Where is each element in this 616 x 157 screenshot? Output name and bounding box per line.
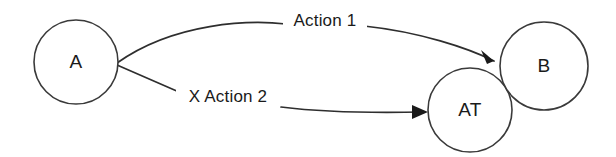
edge-action-1-head-segment (117, 23, 286, 63)
node-b[interactable]: B (500, 22, 588, 110)
edge-x-action-2-head-segment (117, 65, 179, 92)
arrowhead-icon (481, 50, 494, 64)
diagram-canvas: B AT A Action 1 X Action 2 (0, 0, 616, 157)
state-transition-diagram: B AT A Action 1 X Action 2 (0, 0, 616, 157)
node-a-label: A (70, 51, 83, 72)
node-b-label: B (538, 55, 551, 76)
edge-label-action-1-text: Action 1 (293, 11, 356, 30)
edge-label-action-1: Action 1 (283, 10, 367, 34)
edge-label-x-action-2-text: X Action 2 (189, 87, 268, 106)
edge-label-x-action-2: X Action 2 (176, 86, 280, 110)
node-a[interactable]: A (34, 20, 118, 104)
arrowhead-icon (412, 105, 428, 119)
node-at-label: AT (458, 99, 482, 120)
edge-action-1-tail-segment (364, 26, 494, 61)
edge-x-action-2-tail-segment (281, 107, 423, 112)
